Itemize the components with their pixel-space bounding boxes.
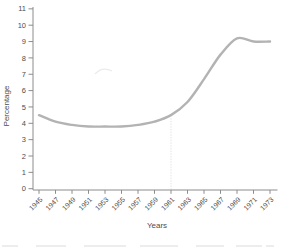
x-tick-label: 1949 <box>61 196 77 212</box>
scan-artifact-cropped-caption <box>140 245 178 247</box>
y-tick-label: 4 <box>22 119 26 128</box>
data-line <box>39 38 270 127</box>
line-chart: 0123456789101119451947194919511953195519… <box>0 0 287 248</box>
y-tick-label: 8 <box>22 54 26 63</box>
y-tick-label: 6 <box>22 86 26 95</box>
y-tick-label: 10 <box>18 21 26 30</box>
x-tick-label: 1973 <box>259 196 275 212</box>
x-tick-label: 1951 <box>77 196 93 212</box>
y-tick-label: 0 <box>22 184 26 193</box>
y-axis-title: Percentage <box>2 85 11 126</box>
y-tick-label: 3 <box>22 135 26 144</box>
y-tick-label: 5 <box>22 103 26 112</box>
scan-artifact-smudge <box>95 69 112 74</box>
x-tick-label: 1957 <box>127 196 143 212</box>
x-tick-label: 1971 <box>242 196 258 212</box>
line-chart-figure: 0123456789101119451947194919511953195519… <box>0 0 287 248</box>
plot-area: 0123456789101119451947194919511953195519… <box>2 4 278 246</box>
scan-artifact-cropped-caption <box>196 245 224 247</box>
scan-artifact-cropped-caption <box>266 245 274 247</box>
y-tick-label: 7 <box>22 70 26 79</box>
y-tick-label: 9 <box>22 37 26 46</box>
x-tick-label: 1945 <box>28 196 44 212</box>
x-tick-label: 1963 <box>176 196 192 212</box>
scan-artifact-cropped-caption <box>236 245 262 247</box>
x-axis-title: Years <box>147 221 167 230</box>
scan-artifact-cropped-caption <box>2 245 18 247</box>
y-tick-label: 1 <box>22 168 26 177</box>
x-tick-label: 1955 <box>110 196 126 212</box>
x-tick-label: 1947 <box>44 196 60 212</box>
scan-artifact-cropped-caption <box>84 245 126 247</box>
x-tick-label: 1959 <box>143 196 159 212</box>
scan-artifact-cropped-caption <box>36 245 66 247</box>
x-tick-label: 1969 <box>226 196 242 212</box>
x-tick-label: 1965 <box>193 196 209 212</box>
y-tick-label: 11 <box>18 4 26 13</box>
x-tick-label: 1961 <box>160 196 176 212</box>
x-tick-label: 1953 <box>94 196 110 212</box>
x-tick-label: 1967 <box>209 196 225 212</box>
y-tick-label: 2 <box>22 152 26 161</box>
